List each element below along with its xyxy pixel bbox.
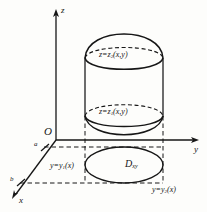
x-axis-arrowhead	[12, 190, 18, 199]
origin-label: O	[44, 126, 52, 137]
x-axis-label: x	[19, 196, 23, 205]
axis-group	[12, 9, 199, 199]
left-boundary-label: y=y1(x)	[50, 162, 74, 171]
right-boundary-label: y=y2(x)	[152, 186, 176, 195]
bottom-surface-args: (x,y)	[113, 107, 127, 116]
coordinate-diagram	[0, 0, 207, 212]
figure-container: z y x O a b z=z2(x,y) z=z1(x,y) Dxy y=y1…	[0, 0, 207, 212]
top-surface-label: z=z2(x,y)	[98, 51, 129, 60]
x-axis-ticks	[17, 144, 49, 186]
domain-label: Dxy	[125, 159, 138, 169]
z-axis-label: z	[61, 6, 65, 15]
projection-region-ellipse	[85, 147, 163, 183]
bottom-rim-front-solid	[85, 116, 163, 127]
left-boundary-args: (x)	[65, 161, 74, 170]
bottom-surface-prefix: z=z	[99, 107, 111, 116]
y-axis-label: y	[194, 145, 198, 154]
x-axis-mark-b-label: b	[10, 176, 14, 183]
top-surface-prefix: z=z	[99, 50, 111, 59]
bottom-surface-dome	[85, 116, 163, 135]
domain-subscript: xy	[132, 162, 138, 169]
bottom-surface-label: z=z1(x,y)	[98, 108, 129, 117]
left-boundary-prefix: y=y	[50, 161, 63, 170]
x-axis-mark-a-label: a	[34, 141, 38, 148]
right-boundary-prefix: y=y	[152, 185, 165, 194]
right-boundary-args: (x)	[167, 185, 176, 194]
top-surface-args: (x,y)	[113, 50, 127, 59]
